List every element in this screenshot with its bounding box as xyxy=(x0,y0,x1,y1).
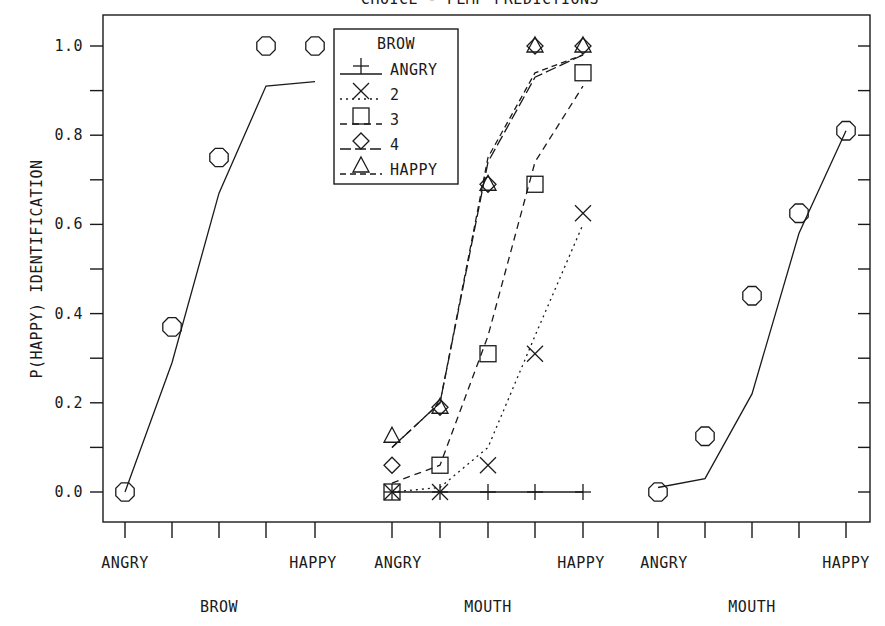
panel-3 xyxy=(649,122,855,502)
y-tick-label: 0.4 xyxy=(54,305,83,323)
x-axis-label: MOUTH xyxy=(464,598,512,616)
diamond-marker-icon xyxy=(384,457,400,473)
plot-frame xyxy=(103,15,870,522)
x-marker-icon xyxy=(353,83,369,99)
legend-label: 2 xyxy=(390,86,400,104)
square-marker-icon xyxy=(480,346,496,362)
x-tick-label-right: HAPPY xyxy=(557,554,605,572)
circle-marker-icon xyxy=(257,37,275,55)
data-series xyxy=(116,37,855,501)
chart-canvas: CHOICE - FLMP PREDICTIONS 0.00.20.40.60.… xyxy=(0,0,885,626)
square-marker-icon xyxy=(353,108,369,124)
legend-label: 3 xyxy=(390,111,400,129)
x-tick-label-left: ANGRY xyxy=(640,554,688,572)
triangle-marker-icon xyxy=(353,157,369,172)
circle-marker-icon xyxy=(790,204,808,223)
x-tick-label-right: HAPPY xyxy=(289,554,337,572)
x-marker-icon xyxy=(527,346,543,362)
prediction-line-3 xyxy=(392,86,583,483)
circle-marker-icon xyxy=(649,483,667,501)
y-tick-label: 0.0 xyxy=(54,483,83,501)
y-axis: 0.00.20.40.60.81.0 xyxy=(54,37,870,501)
legend-title: BROW xyxy=(377,35,416,53)
diamond-marker-icon xyxy=(353,133,369,149)
square-marker-icon xyxy=(575,65,591,81)
legend-entry: ANGRY xyxy=(340,58,438,79)
legend-entry: 2 xyxy=(340,83,400,104)
prediction-line-2 xyxy=(392,224,583,492)
prediction-line-happy xyxy=(392,55,583,448)
legend: BROW ANGRY234HAPPY xyxy=(334,29,458,184)
plus-marker-icon xyxy=(575,484,591,500)
y-axis-label: P(HAPPY) IDENTIFICATION xyxy=(28,159,46,378)
y-tick-label: 0.8 xyxy=(54,126,83,144)
legend-label: 4 xyxy=(390,136,400,154)
x-axis-label: BROW xyxy=(200,598,239,616)
prediction-line xyxy=(658,131,846,488)
y-tick-label: 0.6 xyxy=(54,215,83,233)
x-axis: ANGRYHAPPYBROWANGRYHAPPYMOUTHANGRYHAPPYM… xyxy=(101,522,870,616)
legend-entry: 4 xyxy=(340,133,400,154)
circle-marker-icon xyxy=(306,37,324,55)
x-tick-label-right: HAPPY xyxy=(822,554,870,572)
triangle-marker-icon xyxy=(384,427,400,442)
legend-label: HAPPY xyxy=(390,161,438,179)
plus-marker-icon xyxy=(353,58,369,74)
x-marker-icon xyxy=(575,205,591,221)
x-axis-label: MOUTH xyxy=(728,598,776,616)
panel-1 xyxy=(116,37,324,501)
legend-label: ANGRY xyxy=(390,61,438,79)
prediction-line xyxy=(125,82,315,492)
plus-marker-icon xyxy=(480,484,496,500)
legend-entry: HAPPY xyxy=(340,157,438,179)
x-tick-label-left: ANGRY xyxy=(374,554,422,572)
x-tick-label-left: ANGRY xyxy=(101,554,149,572)
circle-marker-icon xyxy=(696,427,714,446)
plus-marker-icon xyxy=(527,484,543,500)
circle-marker-icon xyxy=(210,148,228,166)
legend-entry: 3 xyxy=(340,108,400,129)
prediction-line-4 xyxy=(392,55,583,448)
chart-title: CHOICE - FLMP PREDICTIONS xyxy=(361,0,599,8)
circle-marker-icon xyxy=(743,287,761,306)
panel-2 xyxy=(384,37,591,500)
circle-marker-icon xyxy=(163,318,181,337)
y-tick-label: 1.0 xyxy=(54,37,83,55)
square-marker-icon xyxy=(527,176,543,192)
y-tick-label: 0.2 xyxy=(54,394,83,412)
x-marker-icon xyxy=(480,457,496,473)
